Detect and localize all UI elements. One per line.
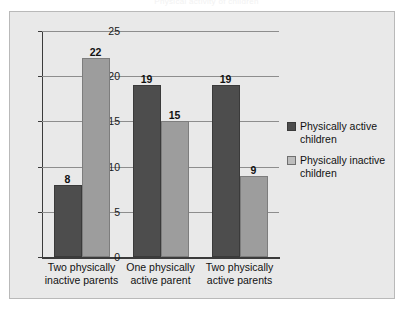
bar-value-label: 22 xyxy=(90,46,102,58)
y-tick-mark xyxy=(38,212,42,213)
y-tick-mark xyxy=(38,31,42,32)
legend-swatch-icon-active xyxy=(287,122,296,131)
bar: 8 xyxy=(54,185,82,257)
x-label-line1: Two physically xyxy=(206,261,274,273)
bar-value-label: 15 xyxy=(169,109,181,121)
x-label-line2: active parent xyxy=(130,274,190,286)
legend-label-inactive: Physically inactive children xyxy=(300,154,385,179)
gridline xyxy=(42,31,279,32)
bar: 9 xyxy=(240,176,268,257)
legend-label-active-line2: children xyxy=(300,133,337,145)
x-label-line2: active parents xyxy=(207,274,272,286)
x-category-label: Two physicallyactive parents xyxy=(200,261,279,286)
legend-item-inactive: Physically inactive children xyxy=(287,154,392,179)
bar-value-label: 19 xyxy=(220,73,232,85)
x-category-label: One physicallyactive parent xyxy=(121,261,200,286)
x-category-label: Two physicallyinactive parents xyxy=(42,261,121,286)
y-tick-mark xyxy=(38,76,42,77)
legend-swatch-icon-inactive xyxy=(287,156,296,165)
legend-label-inactive-line1: Physically inactive xyxy=(300,154,385,166)
chart-title: Physical activity of children xyxy=(0,0,413,6)
gridline xyxy=(42,76,279,77)
legend-label-active: Physically active children xyxy=(300,120,377,145)
x-label-line1: Two physically xyxy=(48,261,116,273)
bar: 22 xyxy=(82,58,110,257)
legend-label-inactive-line2: children xyxy=(300,167,337,179)
y-tick-mark xyxy=(38,257,42,258)
chart-legend: Physically active children Physically in… xyxy=(287,120,392,188)
chart-panel: 0510152025 8221915199 Two physicallyinac… xyxy=(9,11,395,299)
bar-value-label: 8 xyxy=(65,173,71,185)
bar: 19 xyxy=(212,85,240,257)
bar-value-label: 19 xyxy=(141,73,153,85)
x-label-line1: One physically xyxy=(126,261,194,273)
legend-item-active: Physically active children xyxy=(287,120,392,145)
bar-value-label: 9 xyxy=(251,164,257,176)
y-tick-mark xyxy=(38,121,42,122)
y-tick-mark xyxy=(38,167,42,168)
chart-screenshot: Physical activity of children 0510152025… xyxy=(0,0,413,319)
legend-label-active-line1: Physically active xyxy=(300,120,377,132)
x-axis-line xyxy=(42,257,280,259)
bar: 15 xyxy=(161,121,189,257)
y-tick-label: 25 xyxy=(80,25,120,37)
x-label-line2: inactive parents xyxy=(45,274,119,286)
bar: 19 xyxy=(133,85,161,257)
